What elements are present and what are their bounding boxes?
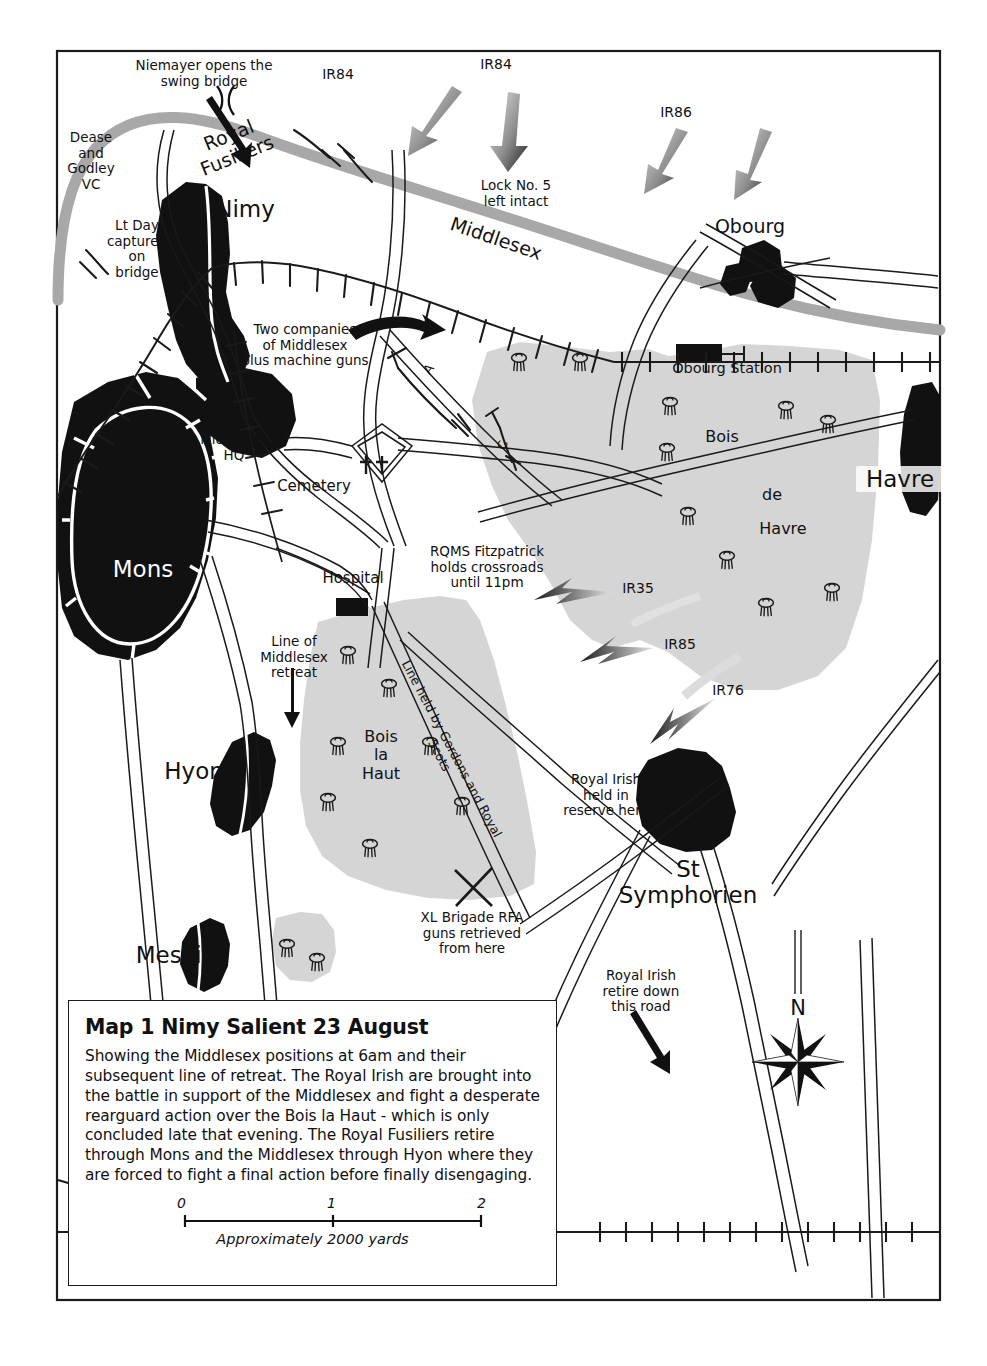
scale-bar-graphic [183,1213,483,1227]
scale-caption: Approximately 2000 yards [85,1231,540,1247]
map-canvas: Niemayer opens the swing bridge Dease an… [0,0,987,1366]
legend-box: Map 1 Nimy Salient 23 August Showing the… [68,1000,557,1286]
scale-tick-1: 1 [327,1195,336,1211]
middlesex-hq-marker [272,433,287,448]
legend-title: Map 1 Nimy Salient 23 August [85,1015,540,1039]
scale-tick-2: 2 [477,1195,486,1211]
scale-bar: 0 1 2 Approximately 2000 yards [85,1195,540,1259]
scale-tick-0: 0 [177,1195,186,1211]
legend-description: Showing the Middlesex positions at 6am a… [85,1047,540,1186]
